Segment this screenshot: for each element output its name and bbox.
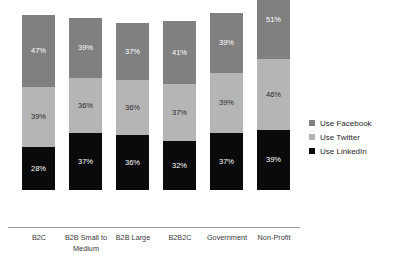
- segment-linkedin[interactable]: 37%: [210, 133, 243, 190]
- category-label-non-profit: Non-Profit: [245, 233, 303, 244]
- segment-facebook[interactable]: 51%: [257, 0, 290, 59]
- legend-item-use-facebook[interactable]: Use Facebook: [309, 116, 393, 130]
- segment-twitter[interactable]: 36%: [69, 78, 102, 133]
- legend-swatch-icon-facebook: [309, 120, 315, 126]
- plot-area: 47% 39% 28% B2C 39% 36% 37: [0, 0, 300, 232]
- segment-value-twitter: 39%: [31, 113, 46, 121]
- segment-linkedin[interactable]: 36%: [116, 135, 149, 190]
- segment-value-linkedin: 36%: [125, 159, 140, 167]
- legend-label-use-linkedin: Use LinkedIn: [320, 147, 367, 156]
- segment-facebook[interactable]: 47%: [22, 15, 55, 87]
- segment-value-linkedin: 28%: [31, 165, 46, 173]
- segment-facebook[interactable]: 39%: [210, 13, 243, 73]
- segment-value-linkedin: 37%: [78, 158, 93, 166]
- stacked-bar[interactable]: 37% 36% 36%: [116, 23, 149, 190]
- segment-value-twitter: 36%: [125, 104, 140, 112]
- stacked-bar[interactable]: 39% 39% 37%: [210, 13, 243, 190]
- segment-value-twitter: 46%: [266, 91, 281, 99]
- segment-twitter[interactable]: 37%: [163, 84, 196, 141]
- segment-twitter[interactable]: 39%: [210, 73, 243, 133]
- segment-value-linkedin: 32%: [172, 162, 187, 170]
- legend-swatch-icon-linkedin: [309, 148, 315, 154]
- segment-value-twitter: 39%: [219, 99, 234, 107]
- legend-swatch-icon-twitter: [309, 134, 315, 140]
- segment-value-facebook: 47%: [31, 47, 46, 55]
- segment-value-facebook: 39%: [219, 39, 234, 47]
- segment-value-facebook: 39%: [78, 44, 93, 52]
- legend-item-use-twitter[interactable]: Use Twitter: [309, 130, 393, 144]
- segment-value-twitter: 37%: [172, 109, 187, 117]
- legend-item-use-linkedin[interactable]: Use LinkedIn: [309, 144, 393, 158]
- segment-value-linkedin: 39%: [266, 156, 281, 164]
- category-axis-line: [8, 227, 300, 228]
- legend-label-use-twitter: Use Twitter: [320, 133, 360, 142]
- segment-linkedin[interactable]: 32%: [163, 141, 196, 190]
- stacked-bar[interactable]: 47% 39% 28%: [22, 15, 55, 190]
- chart-legend: Use Facebook Use Twitter Use LinkedIn: [309, 116, 393, 158]
- segment-value-twitter: 36%: [78, 102, 93, 110]
- segment-value-facebook: 51%: [266, 16, 281, 24]
- stacked-bar[interactable]: 39% 36% 37%: [69, 18, 102, 190]
- segment-value-facebook: 37%: [125, 48, 140, 56]
- segment-facebook[interactable]: 41%: [163, 21, 196, 84]
- stacked-bar-chart: 47% 39% 28% B2C 39% 36% 37: [0, 0, 395, 269]
- segment-facebook[interactable]: 37%: [116, 23, 149, 80]
- segment-linkedin[interactable]: 28%: [22, 147, 55, 190]
- segment-twitter[interactable]: 36%: [116, 80, 149, 135]
- legend-label-use-facebook: Use Facebook: [320, 119, 372, 128]
- segment-twitter[interactable]: 46%: [257, 59, 290, 130]
- segment-facebook[interactable]: 39%: [69, 18, 102, 78]
- segment-value-facebook: 41%: [172, 49, 187, 57]
- segment-value-linkedin: 37%: [219, 158, 234, 166]
- stacked-bar[interactable]: 41% 37% 32%: [163, 21, 196, 190]
- segment-linkedin[interactable]: 39%: [257, 130, 290, 190]
- segment-twitter[interactable]: 39%: [22, 87, 55, 147]
- stacked-bar[interactable]: 51% 46% 39%: [257, 0, 290, 190]
- segment-linkedin[interactable]: 37%: [69, 133, 102, 190]
